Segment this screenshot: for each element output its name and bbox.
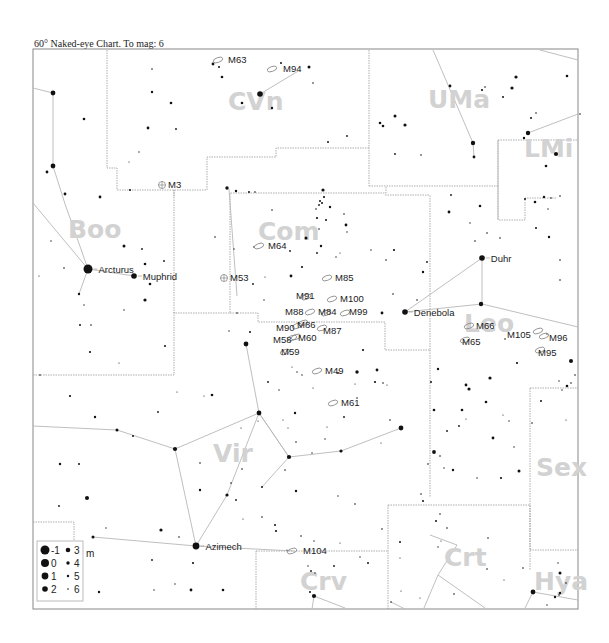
star <box>485 401 488 404</box>
star <box>79 324 81 326</box>
star <box>461 409 464 412</box>
legend-entry: -1 <box>41 545 61 556</box>
star <box>323 196 325 198</box>
star <box>141 248 143 250</box>
star <box>241 468 243 470</box>
star <box>504 338 506 340</box>
star <box>312 387 313 388</box>
star <box>236 312 238 314</box>
star <box>301 266 303 268</box>
star <box>319 200 321 202</box>
star <box>132 435 134 437</box>
star <box>548 236 550 238</box>
star <box>289 250 291 252</box>
star <box>559 195 561 197</box>
star <box>248 191 250 193</box>
dso-m63: M63 <box>212 54 246 65</box>
star <box>83 118 86 121</box>
star <box>242 518 243 519</box>
star <box>546 604 547 605</box>
star <box>225 186 228 189</box>
star <box>458 425 460 427</box>
star <box>225 493 228 496</box>
star <box>264 276 265 277</box>
star <box>448 211 451 214</box>
star <box>474 240 476 242</box>
star <box>326 426 327 427</box>
dso-label: M90 <box>276 322 294 333</box>
star <box>221 76 224 79</box>
galaxy-icon <box>304 308 315 316</box>
magnitude-legend: -10123456m <box>37 541 94 601</box>
star <box>151 559 153 561</box>
star <box>138 151 139 152</box>
star <box>46 171 49 174</box>
star <box>329 206 331 208</box>
legend-star-icon <box>67 588 69 590</box>
star <box>547 208 548 209</box>
star <box>569 359 573 363</box>
dso-label: M104 <box>303 545 327 556</box>
star <box>554 152 558 156</box>
star <box>143 298 146 301</box>
dso-m3: M3 <box>159 179 182 190</box>
star <box>389 419 391 421</box>
star <box>469 222 470 223</box>
star <box>579 113 581 115</box>
galaxy-icon <box>326 295 337 303</box>
legend-mag-label: 2 <box>51 584 57 595</box>
star <box>376 369 379 372</box>
star <box>305 237 308 240</box>
star <box>296 371 297 372</box>
dso-m86: M86 <box>297 319 315 330</box>
star <box>320 245 322 247</box>
dso-label: M58 <box>273 334 291 345</box>
star <box>257 420 258 421</box>
star <box>382 125 385 128</box>
star <box>510 86 513 89</box>
dso-m84: M84 <box>318 306 336 317</box>
constellation-label-sex: Sex <box>536 453 587 482</box>
galaxy-icon <box>311 367 322 375</box>
dso-label: M86 <box>297 319 315 330</box>
star <box>173 447 177 451</box>
star <box>244 342 249 347</box>
legend-mag-label: 6 <box>74 584 80 595</box>
star <box>419 597 420 598</box>
dso-label: M88 <box>285 306 303 317</box>
star-label: Denebola <box>414 307 455 318</box>
star <box>324 438 325 439</box>
star <box>78 293 80 295</box>
star <box>211 394 214 397</box>
star <box>453 593 455 595</box>
star-arcturus: Arcturus <box>84 264 135 275</box>
star <box>144 263 147 266</box>
star <box>465 384 468 387</box>
star <box>439 513 441 515</box>
star <box>313 540 314 541</box>
star <box>252 283 254 285</box>
dso-label: M59 <box>281 346 299 357</box>
dso-m91: M91 <box>296 290 314 301</box>
star-dot <box>84 265 93 274</box>
galaxy-icon <box>327 399 338 407</box>
star <box>543 196 545 198</box>
star <box>522 567 524 569</box>
star <box>367 562 369 564</box>
dso-m59: M59 <box>279 346 299 357</box>
star <box>316 217 318 219</box>
dso-m96: M96 <box>538 332 567 343</box>
star <box>530 117 532 119</box>
dso-label: M94 <box>283 63 301 74</box>
dso-m85: M85 <box>321 272 353 283</box>
star <box>531 422 533 424</box>
star <box>559 572 562 575</box>
dso-label: M49 <box>325 365 343 376</box>
star <box>290 275 293 278</box>
star <box>249 331 251 333</box>
star <box>316 252 318 254</box>
star <box>473 156 476 159</box>
constellation-label-crv: Crv <box>300 567 347 596</box>
star <box>261 486 263 488</box>
star <box>89 351 91 353</box>
